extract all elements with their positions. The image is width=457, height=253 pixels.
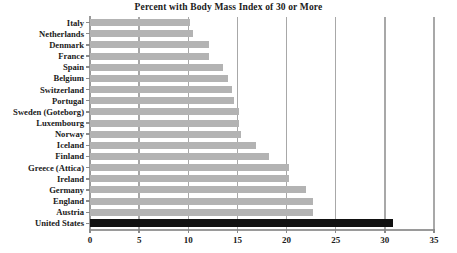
plot-area: 05101520253035 xyxy=(90,17,434,229)
bar xyxy=(90,209,313,216)
category-label: Italy xyxy=(67,18,84,28)
x-gridline xyxy=(335,17,337,229)
x-axis-tick xyxy=(384,229,386,233)
bar-chart: Percent with Body Mass Index of 30 or Mo… xyxy=(0,0,457,253)
y-axis-tick xyxy=(86,122,90,124)
x-axis-tick-label: 0 xyxy=(88,235,93,245)
x-axis-tick xyxy=(433,229,435,233)
x-axis-tick xyxy=(138,229,140,233)
y-axis-tick xyxy=(86,55,90,57)
category-label: Austria xyxy=(56,207,84,217)
y-axis-tick xyxy=(86,100,90,102)
x-axis-tick xyxy=(286,229,288,233)
y-axis-tick xyxy=(86,212,90,214)
category-label: Finland xyxy=(55,151,84,161)
y-axis-tick xyxy=(86,145,90,147)
bar xyxy=(90,97,234,104)
x-axis-tick xyxy=(237,229,239,233)
category-label: Sweden (Goteborg) xyxy=(13,107,84,117)
y-axis-tick xyxy=(86,89,90,91)
y-axis-tick xyxy=(86,44,90,46)
bar xyxy=(90,75,228,82)
x-axis-tick-label: 10 xyxy=(184,235,193,245)
bar xyxy=(90,108,239,115)
bar xyxy=(90,19,190,26)
y-axis-tick xyxy=(86,156,90,158)
category-label: Greece (Attica) xyxy=(28,163,84,173)
category-label: Denmark xyxy=(49,40,84,50)
bar xyxy=(90,164,289,171)
x-gridline xyxy=(384,17,386,229)
category-label: United States xyxy=(35,218,84,228)
x-axis-tick-label: 15 xyxy=(233,235,242,245)
y-axis-tick xyxy=(86,111,90,113)
bar xyxy=(90,120,239,127)
x-axis-tick-label: 20 xyxy=(282,235,291,245)
category-label: Portugal xyxy=(52,96,84,106)
y-axis-tick xyxy=(86,133,90,135)
y-axis-tick xyxy=(86,200,90,202)
bar xyxy=(90,86,232,93)
y-axis-tick xyxy=(86,78,90,80)
bar xyxy=(90,153,269,160)
y-axis-tick xyxy=(86,167,90,169)
chart-title: Percent with Body Mass Index of 30 or Mo… xyxy=(0,2,457,12)
y-axis-tick xyxy=(86,33,90,35)
bar xyxy=(90,186,306,193)
x-axis-tick xyxy=(188,229,190,233)
x-axis-tick-label: 30 xyxy=(380,235,389,245)
category-label: Netherlands xyxy=(39,29,84,39)
category-label: France xyxy=(58,51,84,61)
x-gridline xyxy=(433,17,435,229)
x-axis-tick xyxy=(89,229,91,233)
bar xyxy=(90,41,209,48)
y-axis-tick xyxy=(86,189,90,191)
category-axis-labels: ItalyNetherlandsDenmarkFranceSpainBelgiu… xyxy=(0,17,87,229)
category-label: Ireland xyxy=(57,174,84,184)
y-axis-tick xyxy=(86,66,90,68)
bar xyxy=(90,175,289,182)
bar xyxy=(90,53,209,60)
category-label: Norway xyxy=(55,129,84,139)
bar xyxy=(90,219,393,227)
x-axis-tick-label: 35 xyxy=(430,235,439,245)
bar xyxy=(90,64,223,71)
y-axis-tick xyxy=(86,178,90,180)
y-axis-tick xyxy=(86,223,90,225)
category-label: Belgium xyxy=(53,73,84,83)
y-axis-tick xyxy=(86,22,90,24)
category-label: England xyxy=(53,196,84,206)
x-axis-tick-label: 25 xyxy=(331,235,340,245)
category-label: Iceland xyxy=(57,140,84,150)
category-label: Germany xyxy=(49,185,84,195)
x-axis-tick xyxy=(335,229,337,233)
category-label: Luxembourg xyxy=(36,118,84,128)
bar xyxy=(90,131,241,138)
category-label: Switzerland xyxy=(40,85,84,95)
bar xyxy=(90,142,256,149)
bar xyxy=(90,30,193,37)
bar xyxy=(90,198,313,205)
category-label: Spain xyxy=(63,62,84,72)
x-axis-tick-label: 5 xyxy=(137,235,142,245)
x-axis-line xyxy=(89,229,435,231)
